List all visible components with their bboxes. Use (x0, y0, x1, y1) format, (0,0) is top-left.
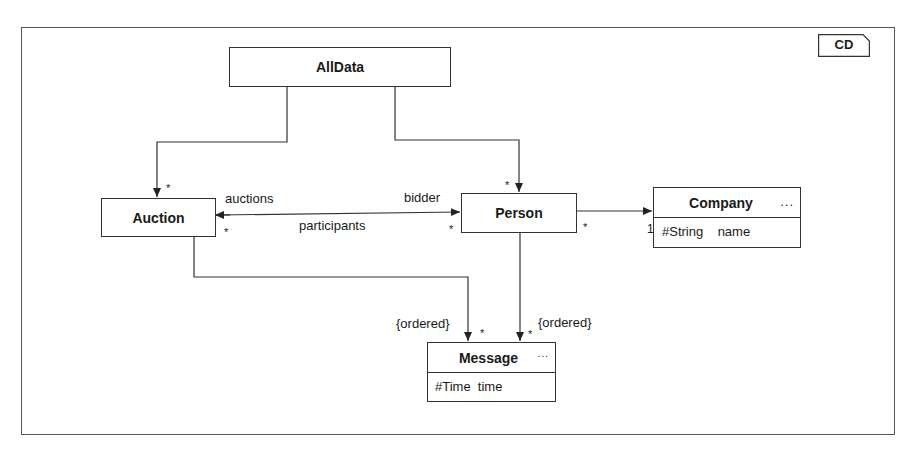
class-auction[interactable]: Auction (101, 198, 216, 237)
role-bidder: bidder (404, 190, 440, 205)
class-alldata[interactable]: AllData (229, 47, 451, 87)
assoc-alldata-person (395, 87, 519, 192)
mult-company-target: 1 (647, 222, 654, 236)
more-icon[interactable]: ... (538, 348, 549, 359)
mult-alldata-auction: * (166, 182, 170, 194)
assoc-label-participants: participants (299, 218, 365, 233)
mult-person-side: * (449, 223, 453, 235)
mult-person-message: * (528, 328, 532, 340)
class-header: Company ... (654, 188, 800, 218)
class-header: Message ... (428, 343, 555, 373)
constraint-ordered-left: {ordered} (396, 316, 450, 331)
diagram-type-tag: CD (818, 34, 870, 57)
constraint-ordered-right: {ordered} (538, 315, 592, 330)
class-attribute: #Time time (435, 379, 502, 394)
mult-auction-side: * (224, 226, 228, 238)
class-person[interactable]: Person (461, 193, 577, 233)
class-name: Message (428, 350, 555, 366)
mult-person-company-source: * (583, 221, 587, 233)
mult-auction-message: * (480, 327, 484, 339)
assoc-alldata-auction (157, 87, 287, 197)
class-name: Company (654, 195, 800, 211)
assoc-auction-person (216, 212, 460, 215)
class-name: Auction (102, 210, 215, 226)
class-name: Person (462, 205, 576, 221)
more-icon[interactable]: ... (780, 194, 794, 209)
mult-alldata-person: * (505, 179, 509, 191)
class-attribute: #String name (662, 224, 750, 239)
class-company[interactable]: Company ... #String name (653, 187, 801, 248)
diagram-tag-label: CD (818, 37, 870, 52)
class-message[interactable]: Message ... #Time time (427, 342, 556, 402)
class-name: AllData (230, 59, 450, 75)
role-auctions: auctions (225, 191, 273, 206)
